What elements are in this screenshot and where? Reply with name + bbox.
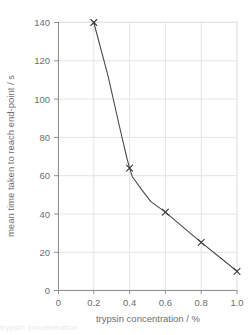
y-tick-label-40: 40 <box>39 209 50 220</box>
line-chart: 140 120 100 80 60 40 20 0 0 0.2 0.4 0.6 … <box>0 0 252 335</box>
x-tick-label-0.2: 0.2 <box>87 297 100 308</box>
y-tick-label-140: 140 <box>34 17 50 28</box>
y-tick-label-20: 20 <box>39 247 50 258</box>
x-tick-label-1.0: 1.0 <box>230 297 243 308</box>
y-tick-label-100: 100 <box>34 94 50 105</box>
chart-figure: 140 120 100 80 60 40 20 0 0 0.2 0.4 0.6 … <box>0 0 252 335</box>
x-tick-label-0.8: 0.8 <box>195 297 208 308</box>
x-tick-label-0.6: 0.6 <box>159 297 172 308</box>
x-tick-label-0.4: 0.4 <box>123 297 136 308</box>
y-tick-label-120: 120 <box>34 55 50 66</box>
figure-caption-fragment: trypsin concentration <box>0 323 252 335</box>
y-tick-label-0: 0 <box>45 285 50 296</box>
y-tick-label-60: 60 <box>39 170 50 181</box>
x-tick-label-0: 0 <box>56 297 61 308</box>
y-tick-label-80: 80 <box>39 132 50 143</box>
y-axis-title: mean time taken to reach end-point / s <box>5 75 16 237</box>
